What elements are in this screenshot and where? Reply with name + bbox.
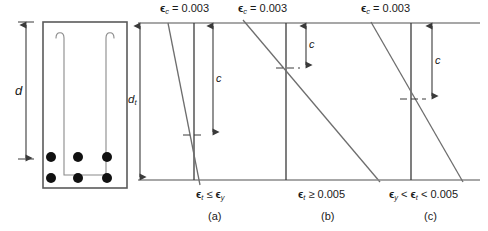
epsilon-value-a: = 0.003 [172,2,209,14]
strain-panel-a [138,23,246,185]
rebar [46,152,56,162]
caption-a: (a) [208,211,221,222]
rebar [102,173,112,183]
operator-lt-2: < [421,188,427,200]
rebar [73,152,83,162]
label-dt-subscript: t [134,98,136,107]
label-depth-dt: dt [128,94,137,106]
condition-label-a: ϵt ≤ ϵy [196,189,225,200]
label-c-a: c [216,73,222,84]
concrete-outline [43,22,127,188]
label-epsilon-c-a: ϵc = 0.003 [160,3,209,14]
value-0005-c: 0.005 [430,188,458,200]
operator-lt-1: < [401,188,407,200]
rebar [73,173,83,183]
caption-b: (b) [321,211,334,222]
epsilon-value-c: = 0.003 [373,2,410,14]
rebar [102,152,112,162]
panel-c-strain-line [371,22,463,182]
strain-panel-c [371,22,480,182]
figure-strain-diagrams: d dt ϵc = 0.003 ϵc = 0.003 ϵc = 0.003 c … [0,0,488,231]
beam-cross-section [18,22,127,188]
operator-ge: ≥ [308,188,314,200]
epsilon-subscript-t: t [201,193,203,202]
epsilon-value-b: = 0.003 [250,2,287,14]
epsilon-subscript-t: t [416,193,418,202]
epsilon-subscript-y: y [221,193,225,202]
value-0005-b: 0.005 [318,188,346,200]
condition-label-c: ϵy < ϵt < 0.005 [389,189,458,200]
rebar [46,173,56,183]
epsilon-subscript-c: c [243,7,247,16]
condition-label-b: ϵt ≥ 0.005 [298,189,345,200]
label-epsilon-c-b: ϵc = 0.003 [238,3,287,14]
label-depth-d: d [15,84,22,97]
epsilon-subscript-t: t [303,193,305,202]
epsilon-subscript-c: c [165,7,169,16]
caption-c: (c) [424,211,437,222]
epsilon-subscript-c: c [366,7,370,16]
epsilon-subscript-y: y [394,193,398,202]
label-c-b: c [309,39,315,50]
panel-a-strain-line [168,23,200,185]
operator-le: ≤ [206,188,212,200]
label-epsilon-c-c: ϵc = 0.003 [361,3,410,14]
label-c-c: c [435,55,441,66]
